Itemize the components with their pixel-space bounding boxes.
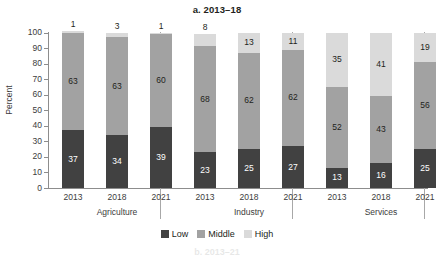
next-panel-title-partial: b. 2013–21 <box>0 247 434 255</box>
x-tick-agriculture-2021: 2021 <box>141 192 181 202</box>
x-tick-industry-2021: 2021 <box>273 192 313 202</box>
value-label-high-services-2013: 35 <box>326 55 348 64</box>
value-label-low-agriculture-2018: 34 <box>106 157 128 166</box>
group-label-industry: Industry <box>204 207 294 217</box>
legend-label-middle: Middle <box>208 229 235 239</box>
value-label-low-industry-2018: 25 <box>238 164 260 173</box>
value-label-middle-agriculture-2018: 63 <box>106 82 128 91</box>
legend-swatch-high-icon <box>244 230 252 238</box>
value-label-high-industry-2018: 13 <box>238 38 260 47</box>
value-label-middle-industry-2021: 62 <box>282 93 304 102</box>
value-label-middle-services-2018: 43 <box>370 125 392 134</box>
legend-item-middle[interactable]: Middle <box>197 229 235 239</box>
value-label-high-agriculture-2018: 3 <box>106 22 128 31</box>
value-label-high-industry-2021: 11 <box>282 37 304 46</box>
segment-high-industry-2013 <box>194 34 216 46</box>
value-label-low-services-2021: 25 <box>414 164 436 173</box>
bar-industry-2013: 23688 <box>194 33 216 189</box>
value-label-middle-industry-2013: 68 <box>194 95 216 104</box>
value-label-high-services-2021: 19 <box>414 43 436 52</box>
group-label-services: Services <box>336 207 426 217</box>
bar-agriculture-2021: 39601 <box>150 33 172 189</box>
value-label-high-agriculture-2021: 1 <box>150 22 172 31</box>
bar-services-2018: 164341 <box>370 33 392 189</box>
value-label-middle-agriculture-2021: 60 <box>150 76 172 85</box>
value-label-low-agriculture-2013: 37 <box>62 155 84 164</box>
bar-industry-2021: 276211 <box>282 33 304 189</box>
value-label-low-industry-2021: 27 <box>282 163 304 172</box>
legend-swatch-middle-icon <box>197 230 205 238</box>
value-label-low-services-2018: 16 <box>370 171 392 180</box>
bar-services-2013: 135235 <box>326 33 348 189</box>
legend-item-low[interactable]: Low <box>161 229 189 239</box>
bar-services-2021: 255619 <box>414 33 436 189</box>
value-label-middle-services-2013: 52 <box>326 123 348 132</box>
value-label-middle-services-2021: 56 <box>414 101 436 110</box>
group-label-agriculture: Agriculture <box>72 207 162 217</box>
bar-agriculture-2013: 37631 <box>62 33 84 189</box>
legend-label-high: High <box>255 229 274 239</box>
segment-high-agriculture-2021 <box>150 33 172 35</box>
value-label-low-agriculture-2021: 39 <box>150 153 172 162</box>
legend-swatch-low-icon <box>161 230 169 238</box>
x-tick-industry-2013: 2013 <box>185 192 225 202</box>
bar-industry-2018: 256213 <box>238 33 260 189</box>
value-label-high-agriculture-2013: 1 <box>62 20 84 29</box>
x-tick-agriculture-2013: 2013 <box>53 192 93 202</box>
value-label-middle-agriculture-2013: 63 <box>62 77 84 86</box>
x-tick-services-2021: 2021 <box>405 192 440 202</box>
x-tick-services-2013: 2013 <box>317 192 357 202</box>
value-label-high-services-2018: 41 <box>370 60 392 69</box>
value-label-middle-industry-2018: 62 <box>238 96 260 105</box>
value-label-high-industry-2013: 8 <box>194 23 216 32</box>
value-label-low-industry-2013: 23 <box>194 166 216 175</box>
segment-high-agriculture-2013 <box>62 31 84 33</box>
legend-label-low: Low <box>172 229 189 239</box>
bar-agriculture-2018: 34633 <box>106 33 128 189</box>
segment-high-agriculture-2018 <box>106 33 128 38</box>
x-tick-industry-2018: 2018 <box>229 192 269 202</box>
value-label-low-services-2013: 13 <box>326 173 348 182</box>
legend-item-high[interactable]: High <box>244 229 274 239</box>
x-tick-services-2018: 2018 <box>361 192 401 202</box>
x-tick-agriculture-2018: 2018 <box>97 192 137 202</box>
chart-legend: LowMiddleHigh <box>0 229 434 239</box>
